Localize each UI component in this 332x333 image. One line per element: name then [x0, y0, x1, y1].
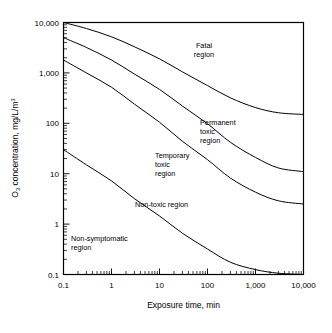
region-label-permanent-line1: Permanent [200, 118, 236, 127]
region-label-fatal-line2: region [194, 50, 214, 59]
y-tick-label-1: 1 [55, 220, 60, 229]
boundary-curve-3 [64, 150, 304, 275]
region-label-temporary-line2: toxic [155, 160, 170, 169]
region-label-nonsymptomatic-line1: Non-symptomatic [71, 234, 128, 243]
y-axis-title-mid: concentration, mg/L/m [10, 101, 20, 187]
region-label-nontoxic: Non-toxic region [135, 200, 188, 209]
y-tick-label-3: 100 [46, 119, 60, 128]
x-tick-label-5: 10,000 [291, 281, 316, 290]
y-tick-label-0: 0.1 [48, 271, 60, 280]
y-tick-label-2: 10 [50, 170, 59, 179]
x-tick-label-1: 1 [109, 281, 114, 290]
x-tick-label-0: 0.1 [58, 281, 70, 290]
region-label-fatal-line1: Fatal [196, 41, 213, 50]
region-label-permanent-line2: toxic [200, 127, 215, 136]
x-tick-label-4: 1,000 [245, 281, 266, 290]
y-tick-label-4: 1,000 [39, 69, 60, 78]
ozone-toxicity-chart: 0.1 1 10 100 1,000 10,000 0.1 1 10 100 1… [0, 0, 332, 333]
boundary-curve-0 [64, 23, 304, 115]
region-label-permanent-line3: region [200, 136, 220, 145]
x-tick-label-3: 100 [201, 281, 215, 290]
chart-figure: 0.1 1 10 100 1,000 10,000 0.1 1 10 100 1… [0, 0, 332, 333]
x-axis-title: Exposure time, min [147, 300, 220, 310]
y-axis-title: O3 concentration, mg/L/m3 [10, 98, 21, 197]
region-label-temporary-line1: Temporary [155, 151, 190, 160]
y-axis-title-superscript: 3 [10, 98, 16, 101]
region-label-nonsymptomatic-line2: region [71, 243, 91, 252]
boundary-curve-2 [64, 60, 304, 204]
y-tick-label-5: 10,000 [35, 19, 60, 28]
x-tick-label-2: 10 [155, 281, 164, 290]
region-label-temporary-line3: region [155, 169, 175, 178]
